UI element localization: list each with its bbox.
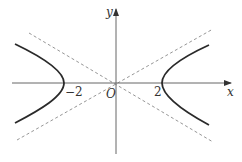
y-axis-label: y — [105, 5, 113, 19]
tick-label-neg2: −2 — [65, 85, 83, 99]
asymptote-descending — [29, 33, 213, 142]
tick-label-2: 2 — [154, 85, 162, 99]
x-axis-label: x — [227, 85, 234, 99]
right-branch — [162, 45, 209, 125]
origin-label: O — [106, 87, 116, 101]
hyperbola-diagram: y x O −2 2 — [0, 0, 242, 162]
asymptote-ascending — [17, 29, 213, 140]
